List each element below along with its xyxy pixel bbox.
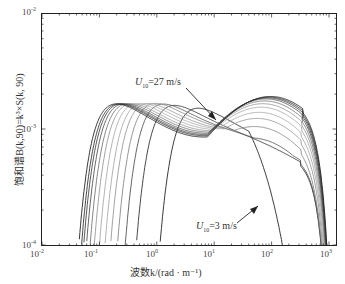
annotation-low-wind: U10=3 m/s [196, 220, 237, 233]
x-axis-label: 波数k/(rad · m⁻¹) [130, 264, 202, 279]
x-tick-label: 100 [146, 248, 158, 259]
x-tick-label: 103 [320, 248, 332, 259]
y-tick-label: 10-4 [22, 239, 36, 250]
annotation-high-wind: U10=27 m/s [135, 76, 181, 89]
arrow-head-icon [250, 206, 258, 214]
x-tick-label: 101 [203, 248, 215, 259]
y-axis-label: 饱和谱B(k,90)=k³×S(k, 90) [11, 50, 26, 210]
chart-canvas [0, 0, 345, 284]
y-tick-label: 10-2 [22, 6, 36, 17]
x-tick-label: 10-1 [84, 248, 98, 259]
x-tick-label: 102 [261, 248, 273, 259]
